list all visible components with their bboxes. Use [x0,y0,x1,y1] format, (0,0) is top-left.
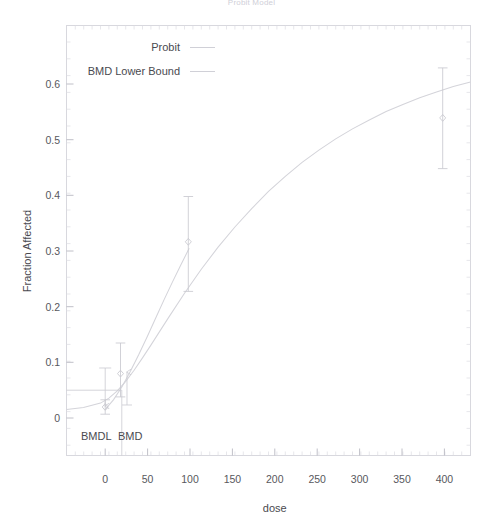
x-tick-label: 350 [393,473,411,485]
bmd-reference-lines [67,368,133,456]
x-axis-title: dose [263,502,287,514]
data-point-group [116,343,126,397]
chart-legend: Probit BMD Lower Bound [88,41,215,77]
x-axis-major-ticks [105,449,444,456]
top-axis-minor-ticks [75,26,461,30]
y-tick-label: 0.1 [45,356,60,368]
left-axis-minor-ticks [67,42,71,445]
y-axis-title: Fraction Affected [21,210,33,292]
x-axis-tick-labels: 0 50 100 150 200 250 300 350 400 [102,473,453,485]
x-tick-label: 200 [266,473,284,485]
legend-label-bmd-lower-bound: BMD Lower Bound [88,65,180,77]
y-tick-label: 0.3 [45,245,60,257]
chart-canvas: 0 0.1 0.2 0.3 0.4 0.5 0.6 0 50 100 150 2… [0,0,503,532]
probit-model-figure: Probit Model [0,0,503,532]
y-axis-major-ticks [67,84,74,418]
right-axis-minor-ticks [467,42,471,445]
bmd-label: BMD [118,430,143,442]
y-tick-label: 0.2 [45,301,60,313]
probit-curve [67,82,471,410]
y-tick-label: 0.4 [45,189,60,201]
x-tick-label: 400 [436,473,454,485]
bottom-axis-minor-ticks [75,452,461,456]
x-tick-label: 0 [102,473,108,485]
legend-label-probit: Probit [151,41,180,53]
y-axis-tick-labels: 0 0.1 0.2 0.3 0.4 0.5 0.6 [45,78,60,424]
y-tick-label: 0.6 [45,78,60,90]
data-point-group [184,197,194,292]
bmdl-label: BMDL [81,430,112,442]
x-tick-label: 250 [308,473,326,485]
x-tick-label: 100 [181,473,199,485]
y-tick-label: 0 [54,412,60,424]
bmd-lower-bound-curve [105,248,189,409]
x-tick-label: 50 [142,473,154,485]
x-tick-label: 300 [351,473,369,485]
data-point-group [438,68,448,169]
x-tick-label: 150 [224,473,242,485]
y-tick-label: 0.5 [45,134,60,146]
